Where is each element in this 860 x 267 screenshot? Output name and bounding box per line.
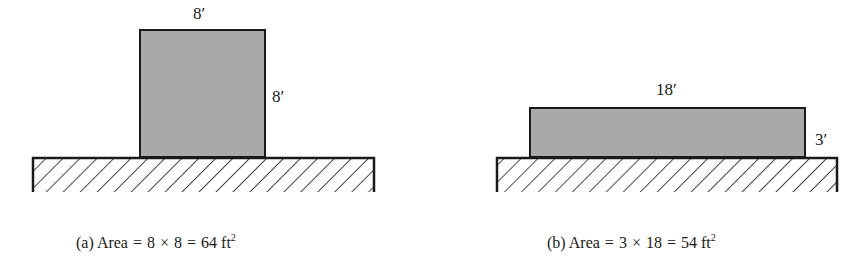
ground-a xyxy=(33,158,374,192)
caption-a-times: × xyxy=(155,234,174,251)
caption-b-equals-2: = xyxy=(662,234,681,251)
caption-b-prefix: (b) Area xyxy=(547,234,600,251)
ground-b xyxy=(497,158,837,192)
caption-b-times: × xyxy=(627,234,646,251)
rectangle-3x18 xyxy=(530,108,805,157)
area-comparison-diagram xyxy=(0,0,860,267)
caption-b-equals-1: = xyxy=(600,234,619,251)
square-width-label: 8′ xyxy=(193,5,205,22)
caption-a-factor-1: 8 xyxy=(147,234,155,251)
figure-b xyxy=(497,108,837,192)
rectangle-height-label: 3′ xyxy=(815,131,827,148)
square-height-label: 8′ xyxy=(272,88,284,105)
caption-b-factor-1: 3 xyxy=(619,234,627,251)
rectangle-width-label: 18′ xyxy=(656,81,677,98)
caption-a: (a) Area=8×8=64 ft2 xyxy=(76,233,236,251)
caption-a-exponent: 2 xyxy=(231,232,236,243)
caption-a-result: 64 ft xyxy=(201,234,231,251)
caption-a-equals-2: = xyxy=(182,234,201,251)
caption-b-result: 54 ft xyxy=(681,234,711,251)
caption-a-equals-1: = xyxy=(128,234,147,251)
figure-a xyxy=(33,30,374,192)
caption-b: (b) Area=3×18=54 ft2 xyxy=(547,233,716,251)
caption-a-factor-2: 8 xyxy=(174,234,182,251)
square-8x8 xyxy=(140,30,265,157)
caption-b-factor-2: 18 xyxy=(646,234,662,251)
caption-a-prefix: (a) Area xyxy=(76,234,128,251)
caption-b-exponent: 2 xyxy=(711,232,716,243)
